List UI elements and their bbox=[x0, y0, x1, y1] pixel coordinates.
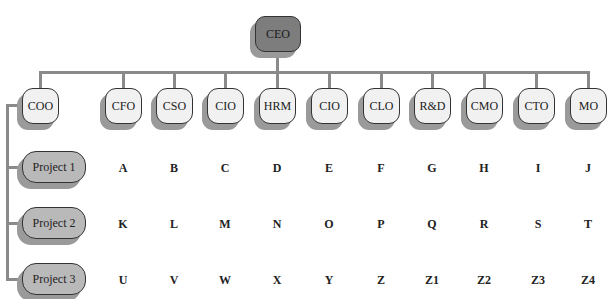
matrix-cell: P bbox=[366, 217, 396, 232]
cfo-drop bbox=[122, 71, 125, 89]
node-clo[interactable]: CLO bbox=[363, 88, 400, 124]
node-cso[interactable]: CSO bbox=[156, 88, 193, 124]
node-project-3[interactable]: Project 3 bbox=[22, 263, 86, 295]
cto-drop bbox=[535, 71, 538, 89]
matrix-cell: G bbox=[417, 161, 447, 176]
node-ceo[interactable]: CEO bbox=[255, 16, 301, 52]
node-label: Project 1 bbox=[33, 160, 76, 175]
project2-link bbox=[6, 222, 23, 225]
matrix-cell: A bbox=[108, 161, 138, 176]
project3-link bbox=[6, 278, 23, 281]
matrix-cell: T bbox=[573, 217, 603, 232]
cio-drop bbox=[224, 71, 227, 89]
matrix-cell: F bbox=[366, 161, 396, 176]
matrix-cell: Z3 bbox=[523, 273, 553, 288]
matrix-cell: R bbox=[469, 217, 499, 232]
node-label: R&D bbox=[419, 99, 445, 114]
matrix-cell: B bbox=[159, 161, 189, 176]
matrix-cell: I bbox=[523, 161, 553, 176]
node-label: CIO bbox=[215, 99, 236, 114]
matrix-cell: X bbox=[262, 273, 292, 288]
node-label: CMO bbox=[471, 99, 498, 114]
matrix-cell: O bbox=[314, 217, 344, 232]
hrm-drop bbox=[276, 71, 279, 89]
node-label: CFO bbox=[112, 99, 135, 114]
matrix-cell: D bbox=[262, 161, 292, 176]
matrix-cell: Y bbox=[314, 273, 344, 288]
node-label: HRM bbox=[264, 99, 291, 114]
matrix-cell: Z bbox=[366, 273, 396, 288]
matrix-cell: L bbox=[159, 217, 189, 232]
node-label: MO bbox=[579, 99, 598, 114]
matrix-cell: Q bbox=[417, 217, 447, 232]
node-cto[interactable]: CTO bbox=[518, 88, 555, 124]
node-label: CSO bbox=[163, 99, 186, 114]
cso-drop bbox=[173, 71, 176, 89]
rd-drop bbox=[431, 71, 434, 89]
ceo-connector bbox=[276, 52, 279, 73]
node-rd[interactable]: R&D bbox=[414, 88, 451, 124]
cmo-drop bbox=[483, 71, 486, 89]
matrix-cell: Z1 bbox=[417, 273, 447, 288]
node-label: COO bbox=[28, 99, 53, 114]
matrix-cell: E bbox=[314, 161, 344, 176]
coo-spine-link bbox=[6, 104, 23, 107]
matrix-cell: U bbox=[108, 273, 138, 288]
coo-drop bbox=[39, 71, 42, 89]
matrix-cell: S bbox=[523, 217, 553, 232]
cio2-drop bbox=[328, 71, 331, 89]
node-mo[interactable]: MO bbox=[570, 88, 607, 124]
node-project-1[interactable]: Project 1 bbox=[22, 151, 86, 183]
project1-link bbox=[6, 166, 23, 169]
matrix-cell: J bbox=[573, 161, 603, 176]
node-label: Project 3 bbox=[33, 272, 76, 287]
node-hrm[interactable]: HRM bbox=[259, 88, 296, 124]
node-cio-2[interactable]: CIO bbox=[311, 88, 348, 124]
matrix-cell: M bbox=[210, 217, 240, 232]
node-cio[interactable]: CIO bbox=[207, 88, 244, 124]
node-label: CLO bbox=[370, 99, 394, 114]
node-cfo[interactable]: CFO bbox=[105, 88, 142, 124]
node-label: CTO bbox=[525, 99, 549, 114]
node-coo[interactable]: COO bbox=[22, 88, 59, 124]
mo-drop bbox=[587, 71, 590, 89]
matrix-cell: Z2 bbox=[469, 273, 499, 288]
matrix-cell: Z4 bbox=[573, 273, 603, 288]
matrix-cell: H bbox=[469, 161, 499, 176]
clo-drop bbox=[380, 71, 383, 89]
matrix-cell: K bbox=[108, 217, 138, 232]
coo-project-spine bbox=[6, 104, 9, 280]
node-label: Project 2 bbox=[33, 216, 76, 231]
node-project-2[interactable]: Project 2 bbox=[22, 207, 86, 239]
matrix-cell: V bbox=[159, 273, 189, 288]
node-ceo-label: CEO bbox=[266, 27, 290, 42]
matrix-cell: C bbox=[210, 161, 240, 176]
matrix-cell: N bbox=[262, 217, 292, 232]
matrix-cell: W bbox=[210, 273, 240, 288]
node-label: CIO bbox=[319, 99, 340, 114]
node-cmo[interactable]: CMO bbox=[466, 88, 503, 124]
